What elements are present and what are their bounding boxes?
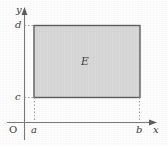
figure-canvas: y x O d c a b E <box>0 0 168 146</box>
x-axis-label: x <box>153 125 159 135</box>
figure-svg <box>0 0 168 146</box>
y-axis-arrow-icon <box>22 7 28 15</box>
y-tick-label-d: d <box>15 20 21 30</box>
origin-label: O <box>9 125 17 135</box>
region-label-E: E <box>81 56 89 67</box>
y-tick-label-c: c <box>15 92 21 102</box>
x-tick-label-b: b <box>136 125 142 135</box>
x-tick-label-a: a <box>31 125 37 135</box>
y-axis-label: y <box>16 5 22 15</box>
